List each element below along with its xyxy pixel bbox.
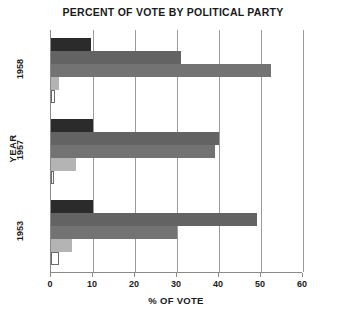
bar-1958-series-3 [51, 64, 271, 77]
chart-title: PERCENT OF VOTE BY POLITICAL PARTY [0, 6, 346, 18]
bar-1953-series-4 [51, 239, 72, 252]
bars-layer [51, 30, 302, 272]
x-tick-mark-20 [134, 273, 135, 277]
y-category-label-1957: 1957 [15, 125, 25, 175]
x-axis-tick-labels: 0102030405060 [0, 279, 346, 293]
x-axis-title: % OF VOTE [50, 295, 302, 306]
bar-1958-series-2 [51, 51, 181, 64]
bar-1957-series-5 [51, 171, 54, 184]
gridline-60 [303, 30, 304, 272]
bar-group-1957 [51, 111, 302, 192]
bar-1958-series-1 [51, 38, 91, 51]
bar-1957-series-3 [51, 145, 215, 158]
bar-1953-series-3 [51, 226, 177, 239]
x-tick-label-0: 0 [30, 279, 70, 289]
bar-group-1958 [51, 30, 302, 111]
bar-1958-series-5 [51, 90, 55, 103]
x-tick-label-10: 10 [72, 279, 112, 289]
x-axis-tick-marks [50, 273, 302, 278]
bar-1953-series-2 [51, 213, 257, 226]
bar-1958-series-4 [51, 77, 59, 90]
y-category-label-1953: 1953 [15, 206, 25, 256]
bar-1957-series-4 [51, 158, 76, 171]
x-tick-mark-30 [176, 273, 177, 277]
x-tick-mark-40 [218, 273, 219, 277]
x-tick-label-50: 50 [240, 279, 280, 289]
x-tick-mark-60 [302, 273, 303, 277]
x-tick-mark-0 [50, 273, 51, 277]
x-tick-mark-10 [92, 273, 93, 277]
bar-1953-series-5 [51, 252, 59, 265]
x-tick-label-40: 40 [198, 279, 238, 289]
bar-group-1953 [51, 192, 302, 273]
y-category-label-1958: 1958 [15, 44, 25, 94]
plot-area [50, 30, 302, 273]
bar-1953-series-1 [51, 200, 93, 213]
x-tick-label-20: 20 [114, 279, 154, 289]
x-tick-label-30: 30 [156, 279, 196, 289]
x-tick-mark-50 [260, 273, 261, 277]
bar-1957-series-2 [51, 132, 219, 145]
x-tick-label-60: 60 [282, 279, 322, 289]
bar-1957-series-1 [51, 119, 93, 132]
y-axis-category-labels: 195819571953 [0, 30, 50, 273]
